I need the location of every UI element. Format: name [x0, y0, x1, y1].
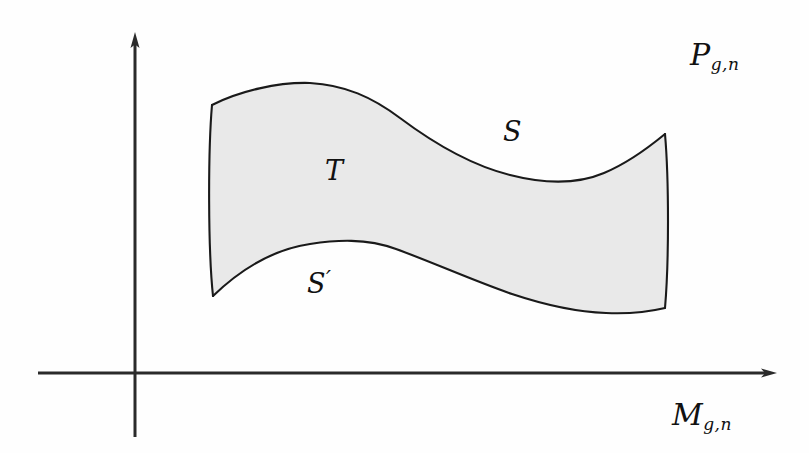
lower-boundary-label-prime: ′ — [326, 266, 331, 291]
upper-boundary-label: S — [503, 118, 522, 145]
lower-boundary-label: S′ — [307, 268, 331, 297]
region-T-fill — [210, 83, 668, 313]
diagram-canvas — [0, 0, 809, 453]
figure-container: Pg,n Mg,n T S S′ — [0, 0, 809, 453]
region-label-base: T — [325, 155, 344, 186]
total-space-label-subscript: g,n — [711, 54, 740, 74]
upper-boundary-label-base: S — [503, 116, 522, 147]
base-space-label-subscript: g,n — [703, 414, 732, 434]
region-label: T — [325, 157, 344, 184]
lower-boundary-label-base: S — [307, 268, 326, 299]
base-space-label-base: M — [672, 397, 703, 432]
total-space-label: Pg,n — [690, 40, 739, 73]
total-space-label-base: P — [690, 37, 711, 72]
base-space-label: Mg,n — [672, 400, 732, 433]
